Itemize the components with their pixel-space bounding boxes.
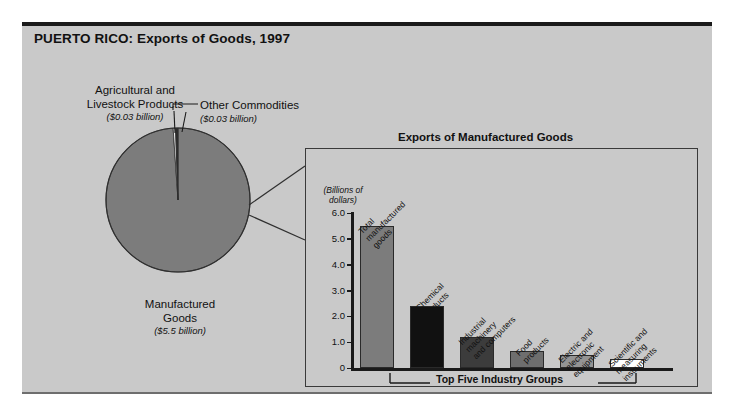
inset-title: Exports of Manufactured Goods <box>398 131 573 143</box>
pie-chart <box>105 127 251 273</box>
y-tick-mark <box>347 238 351 240</box>
title-top-rule <box>22 22 712 26</box>
y-axis <box>351 212 354 369</box>
y-tick-label: 6.0 <box>317 207 345 218</box>
y-tick-label: 4.0 <box>317 259 345 270</box>
y-tick-mark <box>347 316 351 318</box>
pie-label-agricultural-value: ($0.03 billion) <box>60 111 210 122</box>
y-tick-mark <box>347 290 351 292</box>
y-axis-caption: (Billions of dollars) <box>310 186 376 206</box>
pie-label-agricultural-line2: Livestock Products <box>60 98 210 112</box>
pie-label-agricultural-line1: Agricultural and <box>60 84 210 98</box>
y-tick-mark <box>347 264 351 266</box>
figure-page: PUERTO RICO: Exports of Goods, 1997 Agri… <box>0 0 734 417</box>
y-axis-caption-line2: dollars) <box>310 196 376 206</box>
page-title: PUERTO RICO: Exports of Goods, 1997 <box>34 31 290 46</box>
y-tick-label: 0 <box>317 362 345 373</box>
pie-label-manufactured-line2: Goods <box>110 312 250 326</box>
y-tick-mark <box>347 213 351 215</box>
y-tick-mark <box>347 368 351 370</box>
y-tick-label: 2.0 <box>317 310 345 321</box>
y-tick-label: 1.0 <box>317 336 345 347</box>
pie-svg <box>105 127 251 273</box>
figure-bottom-rule <box>22 392 712 394</box>
y-tick-label: 3.0 <box>317 285 345 296</box>
pie-label-manufactured: Manufactured Goods ($5.5 billion) <box>110 298 250 336</box>
pie-label-other-name: Other Commodities <box>200 99 345 113</box>
pie-label-manufactured-line1: Manufactured <box>110 298 250 312</box>
pie-label-manufactured-value: ($5.5 billion) <box>110 325 250 336</box>
pie-slices <box>106 128 250 272</box>
bracket-label: Top Five Industry Groups <box>436 373 563 385</box>
pie-label-other-value: ($0.03 billion) <box>200 113 345 124</box>
pie-label-other: Other Commodities ($0.03 billion) <box>200 99 345 124</box>
pie-label-agricultural: Agricultural and Livestock Products ($0.… <box>60 84 210 122</box>
y-tick-mark <box>347 342 351 344</box>
y-tick-label: 5.0 <box>317 233 345 244</box>
